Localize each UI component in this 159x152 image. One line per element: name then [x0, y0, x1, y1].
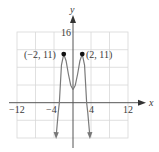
point-label-right: (2, 11): [86, 49, 112, 61]
y-axis-label: y: [69, 4, 75, 15]
tick-label-neg12: −12: [9, 104, 25, 115]
graph-figure: x y −12 −4 4 12 16 (−2, 11) (2, 11): [0, 0, 159, 152]
y-axis-arrow-icon: [70, 15, 76, 23]
x-axis-label: x: [148, 97, 154, 108]
tick-label-4: 4: [89, 104, 94, 115]
x-axis-arrow-icon: [138, 100, 146, 106]
tick-label-12: 12: [123, 104, 133, 115]
tick-label-16: 16: [61, 27, 71, 38]
point-2-11-marker: [80, 52, 85, 57]
point-neg2-11-marker: [61, 52, 66, 57]
tick-label-neg4: −4: [46, 104, 57, 115]
point-label-left: (−2, 11): [24, 49, 56, 61]
